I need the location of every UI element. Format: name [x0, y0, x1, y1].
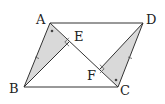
- label-f: F: [87, 68, 96, 83]
- diagram-canvas: A D B C E F: [0, 0, 165, 104]
- label-d: D: [146, 12, 156, 27]
- angle-mark-c: [115, 79, 118, 82]
- geometry-figure: A D B C E F: [0, 0, 165, 104]
- angle-mark-a: [51, 30, 54, 33]
- label-a: A: [35, 12, 46, 27]
- label-b: B: [9, 81, 19, 96]
- label-c: C: [120, 83, 130, 98]
- label-e: E: [74, 29, 84, 44]
- diagonal-ac: [50, 23, 118, 87]
